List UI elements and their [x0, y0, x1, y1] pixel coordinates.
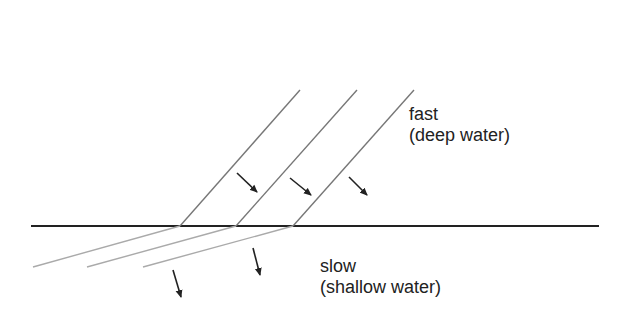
refraction-diagram	[0, 0, 630, 325]
shallow-water-speed-text: slow	[320, 256, 441, 277]
refracted-wavefront-2	[87, 226, 236, 267]
deep-water-arrows	[237, 173, 367, 195]
incident-wavefront-2	[236, 90, 357, 226]
arrow-icon	[290, 178, 311, 195]
deep-water-speed-text: fast	[409, 104, 510, 125]
refracted-wavefronts	[33, 226, 293, 267]
deep-water-medium-text: (deep water)	[409, 125, 510, 146]
shallow-water-label: slow (shallow water)	[320, 256, 441, 298]
arrow-icon	[349, 177, 367, 195]
deep-water-label: fast (deep water)	[409, 104, 510, 146]
arrow-icon	[173, 270, 181, 297]
incident-wavefront-1	[180, 90, 300, 226]
arrow-icon	[237, 173, 257, 192]
shallow-water-medium-text: (shallow water)	[320, 277, 441, 298]
refracted-wavefront-1	[33, 226, 180, 267]
arrow-icon	[253, 248, 260, 275]
incident-wavefronts	[180, 90, 414, 226]
refracted-wavefront-3	[143, 226, 293, 267]
incident-wavefront-3	[293, 90, 414, 226]
